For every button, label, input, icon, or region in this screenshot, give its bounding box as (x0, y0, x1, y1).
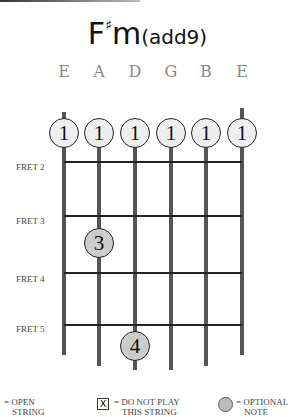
fret-line-4 (64, 272, 242, 274)
fret-line-2 (64, 161, 242, 163)
finger-dot-string-5: 1 (84, 118, 114, 148)
fret-label-5: FRET 5 (16, 324, 45, 334)
top-edge-line (0, 0, 140, 2)
finger-dot-string-4: 1 (120, 118, 150, 148)
chord-accidental: ♯ (105, 17, 112, 33)
string-name-5: A (89, 62, 109, 81)
fret-label-4: FRET 4 (16, 274, 45, 284)
string-name-3: G (161, 62, 181, 81)
string-g (169, 130, 173, 370)
finger-dot-string-6: 1 (49, 118, 79, 148)
fret-label-2: FRET 2 (16, 162, 45, 172)
string-b (204, 130, 208, 366)
legend-do-not-play: = DO NOT PLAY THIS STRING (114, 397, 180, 417)
fret-label-3: FRET 3 (16, 216, 45, 226)
fret-line-3 (64, 215, 242, 217)
string-name-2: B (196, 62, 216, 81)
chord-root: F (88, 16, 105, 51)
string-low-e (62, 112, 66, 355)
finger-dot-string-3: 1 (156, 118, 186, 148)
fret-line-5 (64, 324, 242, 326)
chord-quality: m (112, 16, 141, 51)
optional-note-icon (218, 397, 233, 412)
mute-x-icon: X (97, 398, 109, 410)
string-name-6: E (54, 62, 74, 81)
finger-dot-string-1: 1 (227, 118, 257, 148)
chord-extension: (add9) (141, 25, 207, 49)
finger-dot-d-string-fret6: 4 (120, 331, 150, 361)
finger-dot-string-2: 1 (191, 118, 221, 148)
string-name-4: D (125, 62, 145, 81)
finger-dot-a-string-fret4: 3 (84, 228, 114, 258)
legend-optional-note: = OPTIONAL NOTE (236, 397, 288, 417)
string-name-1: E (232, 62, 252, 81)
legend-open-string: = OPEN STRING (4, 397, 45, 417)
chord-title: F♯m(add9) (0, 16, 295, 51)
